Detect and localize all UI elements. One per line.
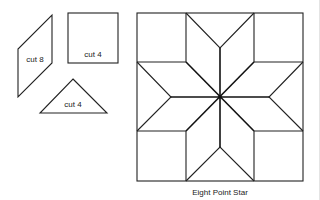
triangle-label: cut 4 xyxy=(64,100,82,109)
star-center-point xyxy=(218,95,222,99)
block-caption: Eight Point Star xyxy=(192,188,248,197)
parallelogram-label: cut 8 xyxy=(26,55,44,64)
square-label: cut 4 xyxy=(84,50,102,59)
quilt-diagram: cut 8 cut 4 cut 4 Eight Point Star xyxy=(0,0,320,200)
